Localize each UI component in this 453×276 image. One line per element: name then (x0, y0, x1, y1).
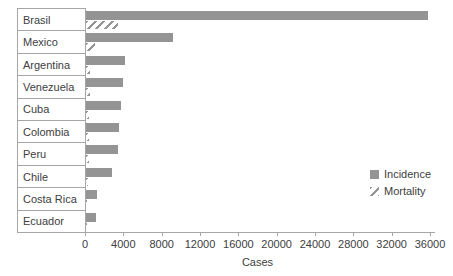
mortality-bar-mexico (86, 43, 95, 51)
x-tick-8000 (162, 233, 163, 236)
mortality-bar-venezuela (86, 88, 90, 96)
legend-item-incidence: Incidence (370, 168, 431, 180)
incidence-bar-argentina (86, 56, 125, 65)
incidence-mortality-bar-chart: BrasilMexicoArgentinaVenezuelaCubaColomb… (0, 0, 453, 276)
x-tick-label-4000: 4000 (111, 238, 135, 250)
x-tick-16000 (238, 233, 239, 236)
x-tick-label-0: 0 (82, 238, 88, 250)
mortality-bar-costa-rica (86, 200, 87, 208)
incidence-bar-brasil (86, 11, 428, 20)
incidence-bar-costa-rica (86, 190, 97, 199)
category-label-argentina: Argentina (17, 54, 85, 76)
category-label-peru: Peru (17, 143, 85, 165)
incidence-bar-ecuador (86, 213, 96, 222)
x-tick-20000 (277, 233, 278, 236)
mortality-bar-brasil (86, 21, 118, 29)
incidence-bar-colombia (86, 123, 119, 132)
bar-row-brasil (86, 8, 430, 30)
category-label-cuba: Cuba (17, 99, 85, 121)
bar-row-colombia (86, 120, 430, 142)
category-label-chile: Chile (17, 166, 85, 188)
bar-row-peru (86, 142, 430, 164)
category-label-venezuela: Venezuela (17, 76, 85, 98)
x-tick-12000 (200, 233, 201, 236)
incidence-bar-peru (86, 145, 118, 154)
x-tick-label-12000: 12000 (185, 238, 216, 250)
x-tick-label-32000: 32000 (376, 238, 407, 250)
x-axis-line (85, 232, 435, 233)
x-tick-label-20000: 20000 (261, 238, 292, 250)
mortality-bar-colombia (86, 133, 89, 141)
plot-area (86, 8, 430, 232)
category-label-mexico: Mexico (17, 31, 85, 53)
x-tick-label-16000: 16000 (223, 238, 254, 250)
x-tick-0 (85, 233, 86, 236)
incidence-bar-cuba (86, 101, 121, 110)
bar-row-cuba (86, 98, 430, 120)
legend-label-incidence: Incidence (384, 168, 431, 180)
x-axis-title: Cases (85, 256, 430, 268)
bar-row-ecuador (86, 210, 430, 232)
x-tick-label-8000: 8000 (149, 238, 173, 250)
category-label-ecuador: Ecuador (17, 211, 85, 233)
incidence-bar-mexico (86, 33, 173, 42)
x-tick-36000 (430, 233, 431, 236)
incidence-swatch-icon (370, 170, 379, 179)
legend: IncidenceMortality (370, 168, 431, 197)
bar-row-mexico (86, 30, 430, 52)
x-tick-24000 (315, 233, 316, 236)
mortality-bar-chile (86, 178, 88, 186)
x-tick-28000 (353, 233, 354, 236)
mortality-bar-ecuador (86, 223, 87, 231)
legend-label-mortality: Mortality (384, 185, 426, 197)
legend-item-mortality: Mortality (370, 185, 431, 197)
bar-row-venezuela (86, 75, 430, 97)
category-label-colombia: Colombia (17, 121, 85, 143)
x-tick-label-24000: 24000 (300, 238, 331, 250)
x-tick-4000 (123, 233, 124, 236)
category-label-brasil: Brasil (17, 9, 85, 31)
incidence-bar-chile (86, 168, 112, 177)
x-tick-label-36000: 36000 (415, 238, 446, 250)
category-axis: BrasilMexicoArgentinaVenezuelaCubaColomb… (17, 8, 85, 233)
category-label-costa-rica: Costa Rica (17, 188, 85, 210)
bar-row-argentina (86, 53, 430, 75)
mortality-swatch-icon (370, 187, 379, 196)
mortality-bar-cuba (86, 111, 89, 119)
x-tick-32000 (392, 233, 393, 236)
mortality-bar-peru (86, 155, 89, 163)
incidence-bar-venezuela (86, 78, 123, 87)
x-tick-label-28000: 28000 (338, 238, 369, 250)
mortality-bar-argentina (86, 66, 90, 74)
